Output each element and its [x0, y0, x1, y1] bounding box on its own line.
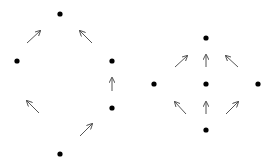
node-right — [255, 81, 260, 86]
node-bottom — [203, 127, 208, 132]
arrow-icon — [175, 56, 187, 67]
diagram-canvas — [0, 0, 274, 168]
node-left — [14, 58, 19, 63]
arrow-icon — [175, 102, 186, 114]
arrow-icon — [27, 101, 39, 113]
node-top — [57, 11, 62, 16]
left-lattice-diagram — [14, 11, 114, 156]
arrow-icon — [226, 102, 238, 114]
arrow-icon — [226, 56, 238, 67]
node-center — [203, 81, 208, 86]
node-right-lower — [109, 105, 114, 110]
node-bottom — [57, 151, 62, 156]
arrow-icon — [27, 31, 40, 43]
node-right-upper — [109, 58, 114, 63]
node-top — [203, 35, 208, 40]
arrow-icon — [80, 31, 92, 43]
node-left — [151, 81, 156, 86]
right-lattice-diagram — [151, 35, 260, 132]
arrow-icon — [80, 124, 92, 136]
